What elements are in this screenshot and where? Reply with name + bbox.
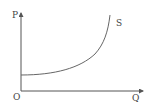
curve-label-s: S (116, 19, 122, 28)
x-axis-label: Q (132, 94, 139, 103)
supply-curve (21, 15, 110, 75)
origin-label: O (13, 93, 20, 102)
y-axis-label: P (12, 11, 18, 20)
